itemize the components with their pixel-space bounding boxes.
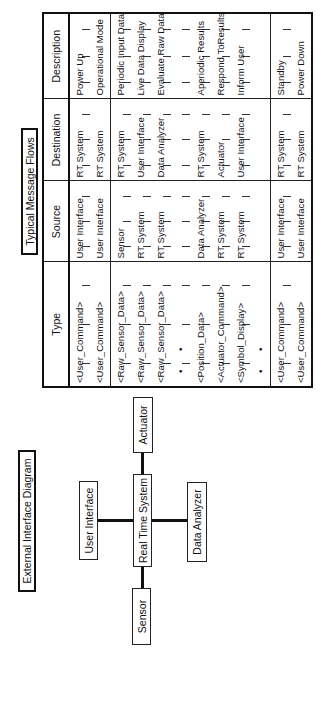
cell-source <box>171 181 191 262</box>
cell-type: <Raw_Sensor_Data> <box>110 262 130 387</box>
cell-source: RT System <box>210 181 230 262</box>
cell-source <box>250 181 270 262</box>
cell-type: <User_Command> <box>90 262 110 387</box>
node-user-interface: User Interface <box>79 481 98 560</box>
cell-type: • • <box>171 262 191 387</box>
table-row: <Raw_Sensor_Data> RT System User Interfa… <box>131 13 151 387</box>
cell-description <box>171 13 191 99</box>
header-source: Source <box>43 181 69 262</box>
cell-description: Periodic Input Data <box>110 13 130 99</box>
cell-destination: Actuator <box>210 99 230 181</box>
connector-center-left <box>141 567 144 588</box>
rotated-page: External Interface Diagram Real Time Sys… <box>0 0 322 702</box>
cell-source: RT System <box>151 181 171 262</box>
table-header-row: Type Source Destination Description <box>43 13 69 387</box>
cell-source: User Interface <box>271 181 291 262</box>
cell-description: Live Data Display <box>131 13 151 99</box>
cell-destination: RT System <box>271 99 291 181</box>
cell-destination <box>171 99 191 181</box>
diagram-title: External Interface Diagram <box>18 450 36 592</box>
cell-type: <Actuator_Command> <box>210 262 230 387</box>
cell-description: Power Up <box>69 13 90 99</box>
table-row: <Position_Data> Data Analyzer RT System … <box>190 13 210 387</box>
cell-type: <Position_Data> <box>190 262 210 387</box>
table-row: <Symbol_Display> RT System User Interfac… <box>230 13 250 387</box>
table-row: <Raw_Sensor_Data> RT System Data Analyze… <box>151 13 171 387</box>
cell-source: User Interface <box>69 181 90 262</box>
cell-description: Respond ToResults <box>210 13 230 99</box>
node-data-analyzer: Data Analyzer <box>187 482 207 562</box>
table-row: <User_Command> User Interface RT System … <box>271 13 291 387</box>
cell-type: <Raw_Sensor_Data> <box>131 262 151 387</box>
cell-source: Data Analyzer <box>190 181 210 262</box>
cell-source: RT System <box>131 181 151 262</box>
node-sensor: Sensor <box>132 588 151 645</box>
connector-center-right <box>141 453 144 474</box>
header-destination: Destination <box>43 99 69 181</box>
cell-destination: RT System <box>190 99 210 181</box>
table-row: <Raw_Sensor_Data> Sensor RT System Perio… <box>110 13 130 387</box>
cell-destination: RT System <box>69 99 90 181</box>
cell-description: Inform User <box>230 13 250 99</box>
connector-center-top <box>98 519 133 522</box>
cell-destination: RT System <box>110 99 130 181</box>
cell-type: <Symbol_Display> <box>230 262 250 387</box>
message-flows-table: Type Source Destination Description <Use… <box>42 12 313 388</box>
cell-destination: Data Analyzer <box>151 99 171 181</box>
cell-destination: User Interface <box>230 99 250 181</box>
cell-type: • • <box>250 262 270 387</box>
table-row-ellipsis: • • <box>171 13 191 387</box>
cell-destination: RT System <box>90 99 110 181</box>
cell-description <box>250 13 270 99</box>
cell-type: <User_Command> <box>291 262 312 387</box>
cell-source: RT System <box>230 181 250 262</box>
cell-description: Aperiodic Results <box>190 13 210 99</box>
table-row: <User_Command> User Interface RT System … <box>69 13 90 387</box>
connector-center-bottom <box>152 519 187 522</box>
table-row-ellipsis: • • <box>250 13 270 387</box>
node-actuator: Actuator <box>133 397 153 453</box>
cell-destination <box>250 99 270 181</box>
cell-type: <Raw_Sensor_Data> <box>151 262 171 387</box>
table-row: <Actuator_Command> RT System Actuator Re… <box>210 13 230 387</box>
header-type: Type <box>43 262 69 387</box>
cell-source: User Interface <box>291 181 312 262</box>
cell-description: Standby <box>271 13 291 99</box>
table-row: <User_Command> User Interface RT System … <box>90 13 110 387</box>
cell-destination: RT System <box>291 99 312 181</box>
cell-description: Power Down <box>291 13 312 99</box>
table-row: <User_Command> User Interface RT System … <box>291 13 312 387</box>
header-description: Description <box>43 13 69 99</box>
cell-description: Evaluate Raw Data <box>151 13 171 99</box>
cell-type: <User_Command> <box>69 262 90 387</box>
cell-source: User Interface <box>90 181 110 262</box>
table-title: Typical Message Flows <box>21 128 38 255</box>
cell-destination: User Interface <box>131 99 151 181</box>
cell-source: Sensor <box>110 181 130 262</box>
cell-type: <User_Command> <box>271 262 291 387</box>
node-real-time-system: Real Time System <box>133 474 152 567</box>
cell-description: Operational Mode <box>90 13 110 99</box>
